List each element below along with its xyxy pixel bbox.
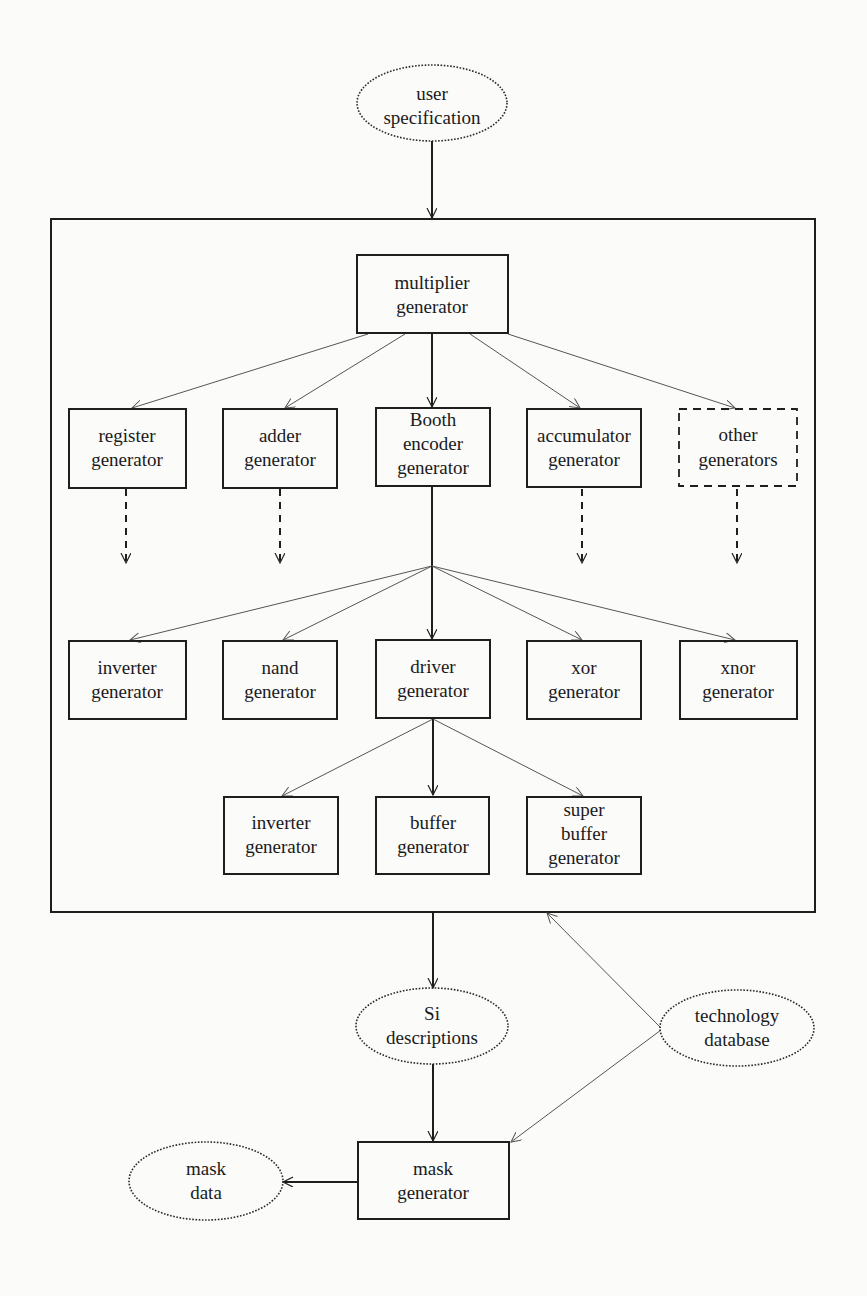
node-label: accumulator — [537, 425, 632, 446]
node-label: register — [99, 425, 157, 446]
node-label: generator — [397, 1182, 469, 1203]
node-label: other — [718, 424, 758, 445]
edge-booth-xor — [432, 566, 582, 640]
node-label: generator — [548, 449, 620, 470]
node-label: adder — [259, 425, 302, 446]
node-inverter-generator-1: inverter generator — [69, 641, 186, 719]
node-label: specification — [383, 107, 481, 128]
node-label: mask — [186, 1158, 227, 1179]
node-label: nand — [262, 657, 299, 678]
edge-booth-inverter — [130, 566, 432, 640]
node-accumulator-generator: accumulator generator — [527, 409, 641, 487]
node-label: buffer — [410, 812, 457, 833]
node-xor-generator: xor generator — [527, 641, 641, 719]
node-label: generator — [91, 449, 163, 470]
node-label: inverter — [251, 812, 311, 833]
node-mask-generator: mask generator — [358, 1142, 509, 1219]
node-label: generator — [548, 847, 620, 868]
node-label: encoder — [403, 433, 464, 454]
node-label: generator — [244, 449, 316, 470]
node-register-generator: register generator — [69, 409, 186, 488]
edge-booth-nand — [283, 566, 432, 640]
edge-driver-superbuffer — [433, 719, 583, 796]
node-label: super — [563, 799, 605, 820]
node-label: mask — [413, 1158, 454, 1179]
node-driver-generator: driver generator — [376, 640, 490, 718]
node-label: database — [704, 1029, 769, 1050]
node-label: descriptions — [386, 1027, 478, 1048]
node-label: xor — [571, 657, 597, 678]
node-label: generator — [397, 836, 469, 857]
node-label: generator — [91, 681, 163, 702]
node-other-generators: other generators — [679, 409, 797, 486]
node-buffer-generator: buffer generator — [376, 797, 489, 874]
node-label: generator — [702, 681, 774, 702]
node-label: buffer — [561, 823, 608, 844]
edge-booth-xnor — [432, 566, 735, 640]
edge-multiplier-register — [132, 334, 368, 408]
node-mask-data: mask data — [129, 1142, 283, 1220]
node-label: generator — [245, 836, 317, 857]
node-inverter-generator-2: inverter generator — [224, 797, 338, 874]
node-label: Booth — [410, 409, 457, 430]
node-super-buffer-generator: super buffer generator — [527, 797, 641, 874]
node-label: generator — [397, 457, 469, 478]
node-label: multiplier — [395, 272, 471, 293]
node-label: generator — [397, 680, 469, 701]
node-label: inverter — [97, 657, 157, 678]
node-label: Si — [424, 1003, 440, 1024]
node-label: user — [416, 83, 448, 104]
node-user-spec: user specification — [357, 65, 507, 141]
node-label: generator — [548, 681, 620, 702]
node-technology-database: technology database — [660, 990, 814, 1066]
node-label: data — [190, 1182, 222, 1203]
node-label: technology — [695, 1005, 780, 1026]
node-xnor-generator: xnor generator — [680, 641, 797, 719]
node-label: driver — [410, 656, 456, 677]
node-label: xnor — [721, 657, 757, 678]
edge-multiplier-other — [508, 334, 735, 408]
node-label: generator — [244, 681, 316, 702]
node-nand-generator: nand generator — [223, 641, 337, 719]
generator-flow-diagram: user specification Si descriptions techn… — [0, 0, 867, 1296]
edge-techdb-frame — [547, 913, 661, 1028]
node-label: generators — [698, 449, 777, 470]
edge-driver-inverter — [282, 719, 433, 796]
edge-multiplier-adder — [285, 334, 405, 408]
node-label: generator — [396, 296, 468, 317]
edge-multiplier-accumulator — [470, 334, 580, 408]
node-si-descriptions: Si descriptions — [356, 988, 508, 1064]
edge-techdb-maskgen — [511, 1030, 661, 1142]
node-adder-generator: adder generator — [223, 409, 337, 488]
node-multiplier-generator: multiplier generator — [357, 255, 508, 333]
node-booth-encoder-generator: Booth encoder generator — [376, 408, 490, 486]
